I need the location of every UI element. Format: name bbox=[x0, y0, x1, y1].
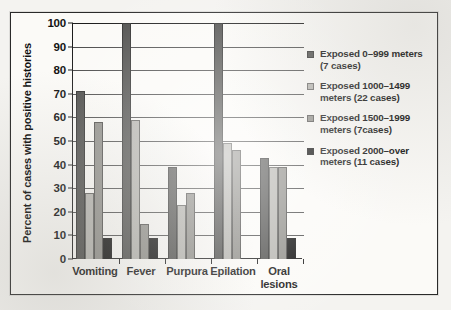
x-axis-label-line1: Purpura bbox=[164, 265, 210, 278]
bar-fever-series-1 bbox=[131, 120, 140, 259]
x-axis-label-vomiting: Vomiting bbox=[72, 265, 118, 290]
bar-oral-lesions-series-0 bbox=[260, 158, 269, 259]
bar-groups bbox=[73, 23, 303, 259]
legend-label-0: Exposed 0–999 meters(7 cases) bbox=[320, 48, 423, 71]
bar-oral-lesions-series-3 bbox=[287, 238, 296, 259]
legend-label-1: Exposed 1000–1499meters (22 cases) bbox=[320, 80, 410, 103]
x-tick-mark-3 bbox=[257, 259, 258, 264]
y-tick-label-90: 90 bbox=[54, 41, 66, 53]
legend-swatch-exposed-0-999 bbox=[307, 51, 314, 58]
bar-group-purpura bbox=[165, 23, 211, 259]
bar-group-epilation bbox=[211, 23, 257, 259]
bar-epilation-series-0 bbox=[214, 23, 223, 259]
y-tick-label-30: 30 bbox=[54, 182, 66, 194]
legend-label-line2: meters (7cases) bbox=[320, 124, 410, 136]
bar-group-oral-lesions bbox=[257, 23, 303, 259]
legend-swatch-exposed-1000-1499 bbox=[307, 83, 314, 90]
legend-label-line1: Exposed 0–999 meters bbox=[320, 48, 423, 60]
legend-swatch-exposed-2000-over bbox=[307, 148, 314, 155]
x-axis-label-oral-lesions: Orallesions bbox=[256, 265, 302, 290]
bar-purpura-series-2 bbox=[186, 193, 195, 259]
plot-area: 1009080706050403020100 VomitingFeverPurp… bbox=[72, 23, 302, 263]
y-tick-label-40: 40 bbox=[54, 159, 66, 171]
x-axis-label-line1: Fever bbox=[118, 265, 164, 278]
legend-item-1[interactable]: Exposed 1000–1499meters (22 cases) bbox=[307, 80, 435, 103]
y-axis-title: Percent of cases with positive histories bbox=[19, 23, 35, 263]
legend-label-2: Exposed 1500–1999meters (7cases) bbox=[320, 112, 410, 135]
x-tick-mark-0 bbox=[119, 259, 120, 264]
y-tick-label-80: 80 bbox=[54, 64, 66, 76]
x-axis-label-line1: Epilation bbox=[210, 265, 256, 278]
legend-label-3: Exposed 2000–overmeters (11 cases) bbox=[320, 145, 409, 168]
legend-swatch-exposed-1500-1999 bbox=[307, 115, 314, 122]
x-tick-mark-1 bbox=[165, 259, 166, 264]
bar-epilation-series-2 bbox=[232, 150, 241, 259]
x-axis-label-line2: lesions bbox=[256, 278, 302, 291]
bar-fever-series-3 bbox=[149, 238, 158, 259]
chart-legend: Exposed 0–999 meters(7 cases)Exposed 100… bbox=[307, 48, 435, 177]
bar-vomiting-series-1 bbox=[85, 193, 94, 259]
bar-vomiting-series-3 bbox=[103, 238, 112, 259]
legend-item-2[interactable]: Exposed 1500–1999meters (7cases) bbox=[307, 112, 435, 135]
legend-item-0[interactable]: Exposed 0–999 meters(7 cases) bbox=[307, 48, 435, 71]
y-tick-label-10: 10 bbox=[54, 229, 66, 241]
bar-purpura-series-1 bbox=[177, 205, 186, 259]
x-axis-label-line1: Oral bbox=[256, 265, 302, 278]
bar-fever-series-2 bbox=[140, 224, 149, 259]
legend-label-line1: Exposed 1500–1999 bbox=[320, 112, 410, 124]
legend-label-line1: Exposed 2000–over bbox=[320, 145, 409, 157]
y-tick-label-0: 0 bbox=[60, 253, 66, 265]
legend-label-line1: Exposed 1000–1499 bbox=[320, 80, 410, 92]
bar-purpura-series-0 bbox=[168, 167, 177, 259]
chart-frame: Percent of cases with positive histories… bbox=[10, 12, 438, 295]
y-tick-label-50: 50 bbox=[54, 135, 66, 147]
x-axis-labels: VomitingFeverPurpuraEpilationOrallesions bbox=[72, 265, 302, 290]
bar-vomiting-series-0 bbox=[76, 91, 85, 259]
y-tick-label-100: 100 bbox=[47, 17, 66, 29]
x-axis-label-line1: Vomiting bbox=[72, 265, 118, 278]
plot-inner: 1009080706050403020100 bbox=[72, 23, 302, 259]
x-axis-label-purpura: Purpura bbox=[164, 265, 210, 290]
legend-label-line2: (7 cases) bbox=[320, 60, 423, 72]
y-tick-label-60: 60 bbox=[54, 111, 66, 123]
legend-label-line2: meters (22 cases) bbox=[320, 92, 410, 104]
y-axis-title-text: Percent of cases with positive histories bbox=[21, 43, 33, 243]
y-tick-label-20: 20 bbox=[54, 206, 66, 218]
bar-group-fever bbox=[119, 23, 165, 259]
x-axis-label-epilation: Epilation bbox=[210, 265, 256, 290]
bar-epilation-series-1 bbox=[223, 143, 232, 259]
y-tick-label-70: 70 bbox=[54, 88, 66, 100]
legend-item-3[interactable]: Exposed 2000–overmeters (11 cases) bbox=[307, 145, 435, 168]
legend-label-line2: meters (11 cases) bbox=[320, 156, 409, 168]
x-tick-mark-4 bbox=[303, 259, 304, 264]
bar-oral-lesions-series-2 bbox=[278, 167, 287, 259]
x-tick-mark-2 bbox=[211, 259, 212, 264]
bar-group-vomiting bbox=[73, 23, 119, 259]
bar-fever-series-0 bbox=[122, 23, 131, 259]
x-axis-label-fever: Fever bbox=[118, 265, 164, 290]
bar-oral-lesions-series-1 bbox=[269, 167, 278, 259]
bar-vomiting-series-2 bbox=[94, 122, 103, 259]
chart-page: Percent of cases with positive histories… bbox=[0, 0, 451, 310]
